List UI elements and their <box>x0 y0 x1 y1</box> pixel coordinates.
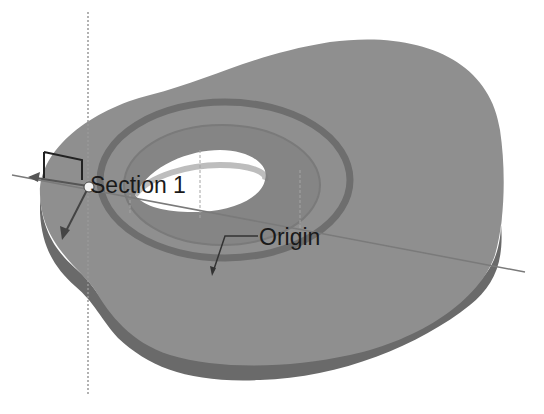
section-label[interactable]: Section 1 <box>90 174 186 197</box>
arrowhead-left-icon <box>28 172 40 182</box>
cad-viewport[interactable]: Section 1 Origin <box>0 0 544 414</box>
origin-label[interactable]: Origin <box>259 226 320 249</box>
